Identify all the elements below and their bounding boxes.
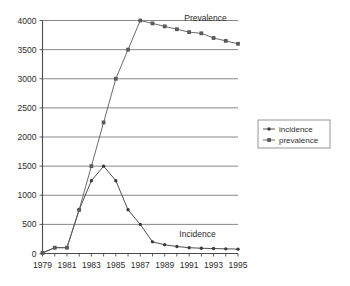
line-chart: 05001000150020002500300035004000 1979198… — [0, 0, 350, 286]
data-point-prevalence — [187, 30, 191, 34]
data-point-incidence — [175, 245, 178, 248]
x-axis-tick-labels: 197919811983198519871989199119931995 — [33, 260, 248, 270]
y-axis-tick-label: 4000 — [18, 16, 37, 26]
y-axis-tick-label: 1500 — [18, 161, 37, 171]
legend-marker-incidence — [267, 127, 270, 130]
x-axis-tick-label: 1979 — [33, 260, 52, 270]
data-point-incidence — [187, 246, 190, 249]
data-point-prevalence — [212, 36, 216, 40]
gridlines — [43, 21, 239, 225]
x-axis-tick-label: 1995 — [229, 260, 248, 270]
annotation-label: Incidence — [179, 229, 216, 239]
y-axis-tick-label: 3500 — [18, 45, 37, 55]
data-point-prevalence — [77, 208, 81, 212]
data-point-incidence — [126, 208, 129, 211]
data-point-incidence — [200, 247, 203, 250]
x-axis-tick-label: 1983 — [82, 260, 101, 270]
data-point-prevalence — [224, 39, 228, 43]
y-axis-tick-label: 2500 — [18, 103, 37, 113]
chart-container: 05001000150020002500300035004000 1979198… — [0, 0, 350, 286]
x-axis-tick-label: 1985 — [106, 260, 125, 270]
data-point-prevalence — [199, 31, 203, 35]
data-point-prevalence — [236, 42, 240, 46]
data-point-prevalence — [163, 24, 167, 28]
x-axis-tick-label: 1991 — [180, 260, 199, 270]
data-point-prevalence — [151, 22, 155, 26]
data-point-incidence — [114, 179, 117, 182]
data-point-incidence — [212, 247, 215, 250]
legend-item-label-prevalence[interactable]: prevalence — [279, 136, 319, 145]
y-axis-tick-label: 2000 — [18, 132, 37, 142]
x-axis-tick-label: 1993 — [204, 260, 223, 270]
data-point-incidence — [139, 223, 142, 226]
series-line-incidence — [43, 166, 239, 253]
data-point-prevalence — [89, 164, 93, 168]
x-axis-tick-label: 1989 — [155, 260, 174, 270]
data-point-incidence — [224, 247, 227, 250]
data-point-prevalence — [41, 251, 45, 255]
x-axis-tick-label: 1981 — [57, 260, 76, 270]
data-point-incidence — [102, 164, 105, 167]
y-axis-tick-label: 1000 — [18, 190, 37, 200]
data-point-incidence — [151, 240, 154, 243]
chart-legend[interactable]: incidenceprevalence — [258, 120, 330, 148]
data-point-prevalence — [53, 246, 57, 250]
series-annotations: PrevalenceIncidence — [179, 13, 227, 239]
data-point-prevalence — [65, 246, 69, 250]
y-axis-tick-label: 3000 — [18, 74, 37, 84]
annotation-label: Prevalence — [184, 13, 227, 23]
data-point-incidence — [90, 179, 93, 182]
data-point-prevalence — [175, 27, 179, 31]
y-axis-tick-labels: 05001000150020002500300035004000 — [18, 16, 37, 259]
x-axis-tick-label: 1987 — [131, 260, 150, 270]
data-point-prevalence — [138, 19, 142, 23]
legend-marker-prevalence — [267, 138, 271, 142]
data-point-incidence — [236, 247, 239, 250]
y-axis-tick-label: 500 — [22, 219, 36, 229]
data-point-prevalence — [102, 121, 106, 125]
data-point-prevalence — [126, 48, 130, 52]
legend-item-label-incidence[interactable]: incidence — [279, 125, 313, 134]
data-point-prevalence — [114, 77, 118, 81]
data-point-incidence — [163, 243, 166, 246]
y-axis-tick-label: 0 — [32, 249, 37, 259]
